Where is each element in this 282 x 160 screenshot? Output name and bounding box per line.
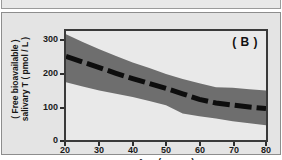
- y-axis-title: ( Free bioavailable ) salivary T ( pmol …: [10, 17, 30, 141]
- y-tick-label-200: 200: [32, 69, 58, 78]
- x-axis-title: Age ( years ): [64, 156, 268, 160]
- x-tick-label-80: 80: [255, 146, 277, 155]
- plot-area: ( B ): [64, 29, 268, 142]
- y-tick-label-300: 300: [32, 35, 58, 44]
- y-tick-label-0: 0: [32, 136, 58, 145]
- x-tick-label-50: 50: [155, 146, 177, 155]
- x-tick-label-60: 60: [189, 146, 211, 155]
- y-tick-label-100: 100: [32, 103, 58, 112]
- panel-label: ( B ): [232, 35, 258, 49]
- x-tick-label-70: 70: [223, 146, 245, 155]
- y-axis-title-line2: salivary T ( pmol / L ): [20, 17, 30, 141]
- x-tick-label-40: 40: [122, 146, 144, 155]
- top-border-strip: [1, 0, 281, 9]
- y-axis-title-line1: ( Free bioavailable ): [10, 17, 20, 141]
- x-tick-label-20: 20: [54, 146, 76, 155]
- x-tick-label-30: 30: [88, 146, 110, 155]
- figure-panel: ( Free bioavailable ) salivary T ( pmol …: [1, 12, 281, 155]
- figure-root: ( Free bioavailable ) salivary T ( pmol …: [0, 0, 282, 160]
